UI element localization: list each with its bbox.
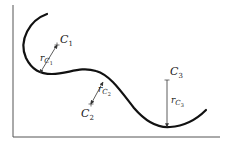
radius-label-c3: rC3: [171, 95, 184, 108]
radius-label-c2: rC2: [98, 84, 111, 97]
label-c1: C1: [60, 33, 73, 48]
center-c1-group: C1 rC1: [40, 33, 73, 73]
curve: [23, 14, 206, 127]
center-c3-group: C3 rC3: [165, 65, 184, 127]
center-marker-c1: [55, 43, 60, 48]
label-c2: C2: [81, 107, 94, 122]
curvature-diagram: C1 rC1 C2 rC2 C3 rC3: [0, 0, 228, 145]
center-c2-group: C2 rC2: [81, 82, 111, 122]
center-marker-c2: [89, 102, 94, 107]
label-c3: C3: [170, 65, 183, 80]
